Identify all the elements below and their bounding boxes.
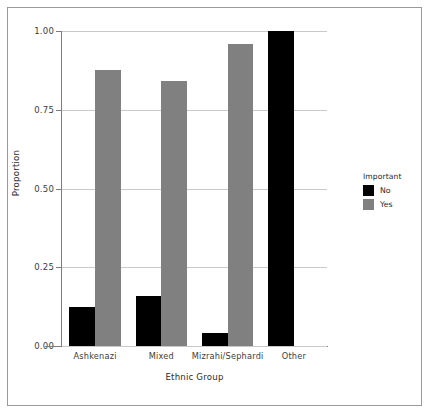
bar-group [268,31,320,346]
y-tick-mark-0.75 [56,110,61,111]
bar[interactable] [95,70,121,346]
legend: Important NoYes [363,172,419,213]
y-tick-label-0.25: 0.25 [34,263,54,272]
bar[interactable] [136,296,162,346]
legend-swatch-icon [363,185,374,196]
legend-item[interactable]: No [363,185,419,196]
bar-group [69,31,121,346]
bar-group [202,31,254,346]
bar[interactable] [161,81,187,346]
bar[interactable] [228,44,254,346]
y-tick-mark-0.25 [56,267,61,268]
legend-swatch-icon [363,199,374,210]
y-tick-mark-1.00 [56,31,61,32]
y-tick-label-1.00: 1.00 [34,27,54,36]
y-tick-label-0.75: 0.75 [34,106,54,115]
chart-figure: 0.000.250.500.751.00 Proportion Ashkenaz… [0,0,429,413]
legend-label: No [380,187,391,195]
y-tick-mark-0.00 [56,346,61,347]
bar[interactable] [69,307,95,346]
y-tick-mark-0.50 [56,189,61,190]
bar[interactable] [268,31,294,346]
x-tick-label: Other [234,352,354,360]
legend-label: Yes [380,201,393,209]
legend-items: NoYes [363,185,419,210]
bar[interactable] [202,333,228,346]
plot-area [62,31,327,346]
bar-group [136,31,188,346]
y-tick-label-0.50: 0.50 [34,185,54,194]
legend-item[interactable]: Yes [363,199,419,210]
y-axis-title: Proportion [11,123,21,223]
legend-title: Important [363,172,419,181]
gridline-0.00 [62,346,327,347]
x-axis-title: Ethnic Group [62,372,327,382]
